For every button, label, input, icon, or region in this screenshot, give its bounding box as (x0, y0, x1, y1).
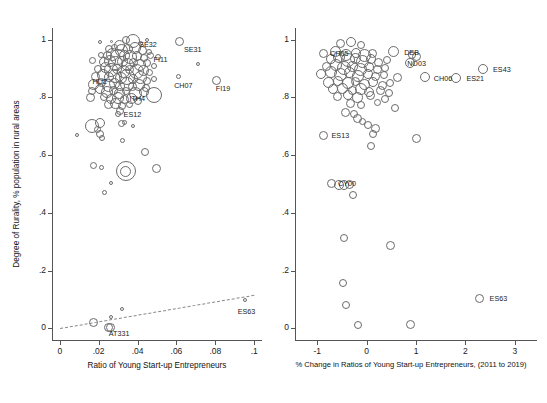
point-label: CH06 (434, 75, 452, 82)
point-label: ES63 (490, 295, 508, 302)
data-bubble (89, 57, 96, 64)
data-bubble (357, 101, 365, 109)
data-bubble (388, 46, 399, 57)
point-label: DEB (404, 49, 419, 56)
data-bubble (89, 318, 98, 327)
y-tick-mark (291, 213, 295, 214)
x-tick-mark (367, 341, 368, 345)
data-bubble (141, 148, 149, 156)
point-label: CY00 (338, 180, 356, 187)
x-tick-label: 1 (401, 347, 431, 356)
y-tick-mark (48, 155, 52, 156)
x-tick-mark (416, 341, 417, 345)
point-label: SE31 (184, 46, 202, 53)
data-bubble (102, 190, 107, 195)
y-tick-label: .2 (26, 266, 46, 275)
data-bubble (376, 86, 385, 95)
x-tick-label: 2 (450, 347, 480, 356)
data-bubble (391, 104, 399, 112)
data-bubble (349, 191, 357, 199)
data-bubble (120, 138, 125, 143)
data-bubble (386, 79, 394, 87)
data-bubble (152, 164, 161, 173)
data-bubble (110, 40, 113, 43)
data-bubble (319, 131, 328, 140)
data-bubble (122, 120, 127, 125)
x-tick-mark (99, 341, 100, 345)
data-bubble (340, 234, 348, 242)
y-tick-label: .4 (269, 208, 289, 217)
data-bubble (99, 135, 105, 141)
data-bubble (151, 63, 157, 69)
y-tick-mark (291, 328, 295, 329)
y-tick-label: .6 (26, 150, 46, 159)
point-label: ES43 (493, 66, 511, 73)
data-bubble (115, 111, 121, 117)
point-label: ITH4 (129, 95, 145, 102)
y-tick-mark (291, 40, 295, 41)
x-tick-mark (515, 341, 516, 345)
data-bubble (120, 307, 124, 311)
x-tick-mark (60, 341, 61, 345)
data-bubble (146, 87, 162, 103)
plot-area-right: CH05DEBNO03ES43CH06ES21ES13CY00ES63 (275, 0, 547, 403)
x-tick-label: .08 (200, 347, 230, 356)
y-tick-label: 0 (26, 323, 46, 332)
data-bubble (412, 134, 421, 143)
data-bubble (393, 73, 402, 82)
data-bubble (380, 71, 388, 79)
data-bubble (346, 99, 355, 108)
y-tick-label: .6 (269, 150, 289, 159)
y-tick-mark (291, 97, 295, 98)
data-bubble (333, 92, 342, 101)
point-label: FI11 (154, 56, 168, 63)
x-tick-mark (317, 341, 318, 345)
x-tick-mark (465, 341, 466, 345)
y-tick-mark (291, 155, 295, 156)
x-tick-label: 0 (352, 347, 382, 356)
y-tick-mark (48, 328, 52, 329)
data-bubble (98, 40, 102, 44)
x-tick-label: .02 (84, 347, 114, 356)
y-tick-label: 1 (269, 35, 289, 44)
data-bubble (420, 72, 430, 82)
right-x-axis-title: % Change in Ratios of Young Start-up Ent… (275, 361, 547, 369)
point-label: ES21 (466, 75, 484, 82)
data-bubble (354, 321, 362, 329)
data-bubble (243, 298, 247, 302)
data-bubble (346, 37, 356, 47)
y-tick-mark (48, 271, 52, 272)
point-label: SE32 (139, 41, 157, 48)
y-tick-label: 0 (269, 323, 289, 332)
figure-canvas: SE32SE31FI11HU2CH07FI19ITH4ES12ES63AT331… (0, 0, 547, 403)
point-label: FI19 (216, 85, 230, 92)
data-bubble (151, 76, 157, 82)
x-tick-mark (254, 341, 255, 345)
point-label: CH07 (174, 82, 192, 89)
x-tick-label: .1 (239, 347, 269, 356)
panel-right: CH05DEBNO03ES43CH06ES21ES13CY00ES63 0.2.… (275, 0, 547, 403)
data-bubble (131, 124, 135, 128)
y-tick-label: .2 (269, 266, 289, 275)
point-label: ES12 (124, 111, 142, 118)
y-tick-mark (48, 213, 52, 214)
left-x-axis-line (52, 340, 262, 341)
y-tick-mark (48, 40, 52, 41)
data-bubble (342, 301, 350, 309)
point-label: ES63 (238, 308, 256, 315)
data-bubble (109, 181, 113, 185)
data-bubble (478, 64, 488, 74)
panel-left: SE32SE31FI11HU2CH07FI19ITH4ES12ES63AT331… (0, 0, 275, 403)
data-bubble (75, 133, 79, 137)
y-tick-mark (48, 97, 52, 98)
left-y-axis-title: Degree of Rurality, % population in rura… (12, 28, 21, 340)
point-label: HU2 (93, 78, 107, 85)
y-tick-label: .8 (26, 92, 46, 101)
data-bubble (176, 74, 181, 79)
data-bubble (86, 93, 95, 102)
data-bubble (451, 73, 461, 83)
x-tick-mark (176, 341, 177, 345)
x-tick-mark (215, 341, 216, 345)
right-y-axis-line (295, 28, 296, 340)
data-bubble (381, 95, 389, 103)
